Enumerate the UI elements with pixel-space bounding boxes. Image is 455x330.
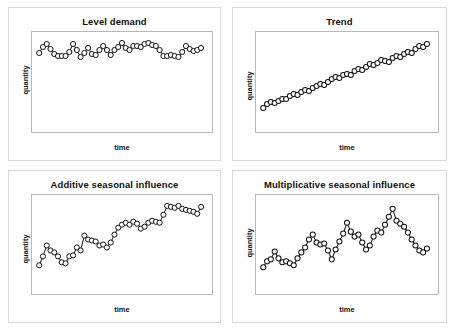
data-point-marker (329, 257, 334, 262)
data-point-marker (108, 240, 113, 245)
data-point-marker (325, 248, 330, 253)
data-point-marker (74, 47, 79, 52)
data-point-marker (295, 256, 300, 261)
data-point-marker (382, 222, 387, 227)
plot-area-trend (255, 31, 439, 133)
series-plot-additive-seasonal-influence (32, 195, 212, 294)
data-point-marker (71, 41, 76, 46)
data-point-marker (291, 263, 296, 268)
data-point-marker (344, 220, 349, 225)
y-axis-label-additive-seasonal-influence: quantity (21, 234, 30, 263)
plot-area-multiplicative-seasonal-influence (255, 194, 439, 295)
data-point-marker (82, 50, 87, 55)
data-point-marker (386, 214, 391, 219)
data-point-marker (157, 47, 162, 52)
panel-level-demand: Level demand quantity time (8, 7, 221, 161)
data-point-marker (44, 41, 49, 46)
data-point-marker (176, 54, 181, 59)
data-point-marker (161, 212, 166, 217)
series-line (263, 209, 427, 267)
data-point-marker (413, 243, 418, 248)
plot-area-additive-seasonal-influence (31, 194, 213, 295)
data-point-marker (405, 230, 410, 235)
data-point-marker (303, 245, 308, 250)
series-plot-multiplicative-seasonal-influence (256, 195, 438, 294)
data-point-marker (261, 265, 266, 270)
data-point-marker (409, 237, 414, 242)
data-point-marker (119, 40, 124, 45)
data-point-marker (198, 45, 203, 50)
series-plot-trend (256, 32, 438, 132)
data-point-marker (180, 49, 185, 54)
data-point-marker (310, 232, 315, 237)
data-point-marker (402, 224, 407, 229)
data-point-marker (37, 50, 42, 55)
x-axis-label-level-demand: time (31, 143, 213, 152)
figure-grid: Level demand quantity time Trend quantit… (0, 0, 455, 330)
x-axis-label-trend: time (255, 143, 439, 152)
x-axis-label-multiplicative-seasonal-influence: time (255, 305, 439, 314)
data-point-marker (195, 211, 200, 216)
y-axis-label-multiplicative-seasonal-influence: quantity (245, 228, 254, 257)
data-point-marker (367, 243, 372, 248)
data-point-marker (104, 245, 109, 250)
data-point-marker (390, 206, 395, 211)
data-point-marker (360, 240, 365, 245)
data-point-marker (37, 263, 42, 268)
data-point-marker (348, 229, 353, 234)
y-axis-label-trend: quantity (245, 71, 254, 100)
data-point-marker (198, 204, 203, 209)
data-point-marker (93, 52, 98, 57)
chart-title-level-demand: Level demand (9, 16, 220, 27)
chart-title-trend: Trend (233, 16, 446, 27)
data-point-marker (112, 232, 117, 237)
data-point-marker (63, 261, 68, 266)
data-point-marker (268, 257, 273, 262)
data-point-marker (104, 47, 109, 52)
data-point-marker (379, 230, 384, 235)
panel-additive-seasonal-influence: Additive seasonal influence quantity tim… (8, 170, 221, 323)
data-point-marker (424, 41, 429, 46)
data-point-marker (157, 220, 162, 225)
chart-title-multiplicative-seasonal-influence: Multiplicative seasonal influence (233, 179, 446, 190)
x-axis-label-additive-seasonal-influence: time (31, 305, 213, 314)
data-point-marker (48, 46, 53, 51)
panel-multiplicative-seasonal-influence: Multiplicative seasonal influence quanti… (232, 170, 447, 323)
data-point-marker (67, 49, 72, 54)
data-point-marker (40, 254, 45, 259)
plot-area-level-demand (31, 31, 213, 133)
data-point-marker (371, 234, 376, 239)
series-line (39, 206, 201, 265)
y-axis-label-level-demand: quantity (21, 65, 30, 94)
data-point-marker (86, 45, 91, 50)
data-point-marker (78, 248, 83, 253)
data-point-marker (356, 232, 361, 237)
data-point-marker (337, 239, 342, 244)
data-point-marker (71, 253, 76, 258)
data-point-marker (134, 221, 139, 226)
data-point-marker (44, 243, 49, 248)
data-point-marker (108, 52, 113, 57)
data-point-marker (272, 249, 277, 254)
series-plot-level-demand (32, 32, 212, 132)
chart-title-additive-seasonal-influence: Additive seasonal influence (9, 179, 220, 190)
data-point-marker (341, 231, 346, 236)
data-point-marker (55, 254, 60, 259)
data-point-marker (333, 247, 338, 252)
panel-trend: Trend quantity time (232, 7, 447, 161)
data-point-marker (306, 237, 311, 242)
data-point-marker (299, 250, 304, 255)
data-point-marker (424, 246, 429, 251)
data-point-marker (322, 241, 327, 246)
